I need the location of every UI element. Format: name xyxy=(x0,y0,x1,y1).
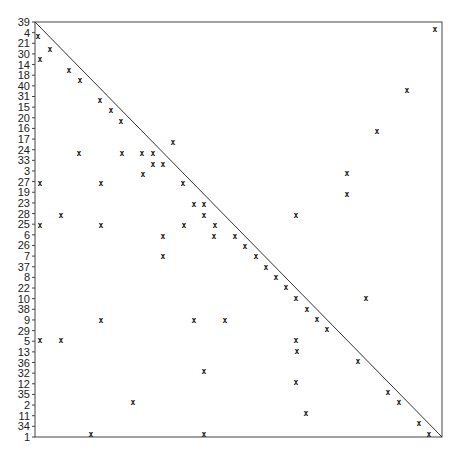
x-marker: x xyxy=(38,221,43,230)
x-marker: x xyxy=(254,252,259,261)
x-marker: x xyxy=(120,149,125,158)
x-marker: x xyxy=(397,398,402,407)
x-marker: x xyxy=(141,170,146,179)
x-marker: x xyxy=(243,242,248,251)
x-marker: x xyxy=(161,252,166,261)
x-marker: x xyxy=(131,398,136,407)
x-marker: x xyxy=(345,169,350,178)
x-marker: x xyxy=(223,316,228,325)
x-marker: x xyxy=(294,294,299,303)
x-marker: x xyxy=(119,117,124,126)
x-marker: x xyxy=(59,336,64,345)
x-marker: x xyxy=(364,294,369,303)
x-marker: x xyxy=(233,232,238,241)
x-marker: x xyxy=(109,106,114,115)
x-marker: x xyxy=(171,138,176,147)
x-marker: x xyxy=(375,127,380,136)
x-marker: x xyxy=(192,200,197,209)
x-marker: x xyxy=(294,336,299,345)
x-marker: x xyxy=(212,232,217,241)
x-marker: x xyxy=(151,160,156,169)
x-marker: x xyxy=(140,149,145,158)
x-marker: x xyxy=(67,66,72,75)
data-points: xxxxxxxxxxxxxxxxxxxxxxxxxxxxxxxxxxxxxxxx… xyxy=(36,25,438,439)
x-marker: x xyxy=(77,149,82,158)
x-marker: x xyxy=(99,179,104,188)
x-marker: x xyxy=(325,325,330,334)
x-marker: x xyxy=(181,179,186,188)
x-marker: x xyxy=(274,273,279,282)
x-marker: x xyxy=(161,232,166,241)
x-marker: x xyxy=(99,316,104,325)
x-marker: x xyxy=(284,283,289,292)
x-marker: x xyxy=(264,263,269,272)
x-marker: x xyxy=(202,211,207,220)
x-marker: x xyxy=(294,378,299,387)
scatter-chart: 3942130141840311520161724333271923282562… xyxy=(0,0,460,458)
x-marker: x xyxy=(161,160,166,169)
x-marker: x xyxy=(38,55,43,64)
x-marker: x xyxy=(202,430,207,439)
x-marker: x xyxy=(213,221,218,230)
x-marker: x xyxy=(99,221,104,230)
x-marker: x xyxy=(78,76,83,85)
x-marker: x xyxy=(417,419,422,428)
x-marker: x xyxy=(405,86,410,95)
x-marker: x xyxy=(294,211,299,220)
x-marker: x xyxy=(38,336,43,345)
x-marker: x xyxy=(59,211,64,220)
x-marker: x xyxy=(305,305,310,314)
x-marker: x xyxy=(356,357,361,366)
x-marker: x xyxy=(304,409,309,418)
x-marker: x xyxy=(192,316,197,325)
x-marker: x xyxy=(295,347,300,356)
x-marker: x xyxy=(315,315,320,324)
y-axis: 3942130141840311520161724333271923282562… xyxy=(18,16,35,443)
x-marker: x xyxy=(89,430,94,439)
x-marker: x xyxy=(345,190,350,199)
x-marker: x xyxy=(433,25,438,34)
x-marker: x xyxy=(151,149,156,158)
x-marker: x xyxy=(98,96,103,105)
y-tick-label: 1 xyxy=(24,431,30,443)
x-marker: x xyxy=(38,179,43,188)
x-marker: x xyxy=(427,430,432,439)
x-marker: x xyxy=(202,367,207,376)
x-marker: x xyxy=(48,45,53,54)
x-marker: x xyxy=(36,32,41,41)
diagonal-line xyxy=(35,22,442,437)
x-marker: x xyxy=(202,200,207,209)
x-marker: x xyxy=(182,221,187,230)
x-marker: x xyxy=(386,388,391,397)
